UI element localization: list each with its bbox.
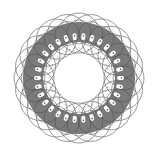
- inner-dot: [103, 95, 104, 96]
- inner-dot: [49, 73, 50, 74]
- inner-dot: [83, 48, 84, 49]
- inner-dot: [61, 102, 62, 103]
- inner-dot: [88, 106, 89, 107]
- inner-dot: [105, 64, 106, 65]
- inner-dot: [78, 47, 79, 48]
- inner-dot: [54, 95, 55, 96]
- inner-dot: [52, 64, 53, 65]
- inner-dot: [96, 53, 97, 54]
- inner-dot: [92, 104, 93, 105]
- inner-dot: [52, 91, 53, 92]
- inner-dot: [83, 107, 84, 108]
- tooth: [117, 76, 124, 80]
- inner-dot: [100, 56, 101, 57]
- inner-dot: [107, 87, 108, 88]
- inner-dot: [69, 106, 70, 107]
- inner-dot: [74, 107, 75, 108]
- inner-dot: [69, 49, 70, 50]
- inner-dot: [96, 102, 97, 103]
- inner-dot: [57, 99, 58, 100]
- inner-dot: [61, 53, 62, 54]
- inner-dot: [92, 51, 93, 52]
- inner-dot: [78, 107, 79, 108]
- inner-dot: [88, 49, 89, 50]
- inner-dot: [107, 68, 108, 69]
- inner-dot: [65, 104, 66, 105]
- inner-dot: [108, 82, 109, 83]
- inner-dot: [49, 82, 50, 83]
- tooth: [34, 76, 41, 80]
- inner-dot: [50, 68, 51, 69]
- inner-dot: [100, 99, 101, 100]
- inner-dot: [105, 91, 106, 92]
- inner-dot: [65, 51, 66, 52]
- inner-dot: [48, 77, 49, 78]
- inner-dot: [57, 56, 58, 57]
- inner-dot: [103, 60, 104, 61]
- inner-dot: [108, 77, 109, 78]
- inner-dot-ring: [48, 47, 109, 108]
- inner-dot: [74, 48, 75, 49]
- inner-dot: [54, 60, 55, 61]
- inner-dot: [50, 87, 51, 88]
- spirograph-figure: [0, 0, 158, 157]
- inner-dot: [108, 73, 109, 74]
